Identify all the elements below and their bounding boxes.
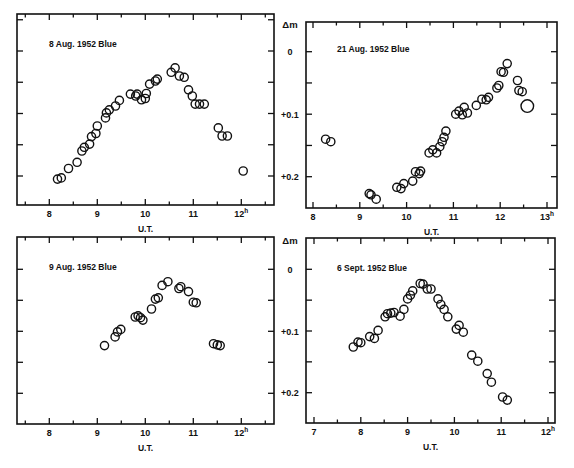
- x-axis-label: U.T.: [138, 443, 153, 453]
- data-point: [147, 305, 155, 313]
- x-tick-label: 12h: [234, 207, 248, 219]
- figure-canvas: 89101112hU.T.8 Aug. 1952 Blue 8910111213…: [0, 0, 574, 468]
- x-tick-label: 10: [140, 428, 150, 438]
- data-point: [154, 294, 162, 302]
- x-tick-label: 10: [449, 427, 459, 437]
- x-tick-label: 8: [47, 428, 52, 438]
- x-tick-label: 8: [47, 209, 52, 219]
- y-axis-label-delta-m: Δm: [282, 235, 297, 246]
- data-point: [214, 124, 222, 132]
- x-tick-label: 13h: [540, 210, 554, 222]
- data-point: [487, 378, 495, 386]
- x-tick-label: 11: [496, 427, 506, 437]
- panel-21-aug-1952: 8910111213hU.T.21 Aug. 1952 Blue: [306, 22, 557, 237]
- x-tick-label: 9: [357, 212, 362, 222]
- y-tick-label: 0: [287, 47, 292, 57]
- x-tick-label: 12: [495, 212, 505, 222]
- shared-y-axis-bottom: Δm0+0.1+0.2: [281, 235, 299, 398]
- data-point: [495, 81, 503, 89]
- data-point: [521, 100, 534, 113]
- data-point: [374, 326, 382, 334]
- shared-y-axis-top: Δm0+0.1+0.2: [281, 19, 299, 182]
- data-point: [349, 343, 357, 351]
- x-tick-label: 8: [358, 427, 363, 437]
- data-point: [474, 357, 482, 365]
- data-point: [483, 370, 491, 378]
- data-point: [64, 164, 72, 172]
- panel-title: 9 Aug. 1952 Blue: [49, 262, 117, 272]
- data-point: [503, 60, 511, 68]
- panel-title: 6 Sept. 1952 Blue: [337, 263, 407, 273]
- data-point: [111, 333, 119, 341]
- x-tick-label: 9: [95, 209, 100, 219]
- x-tick-label: 11: [189, 209, 199, 219]
- data-point: [513, 76, 521, 84]
- y-tick-label: +0.1: [281, 327, 299, 337]
- data-point: [409, 177, 417, 185]
- light-curve-figure: 89101112hU.T.8 Aug. 1952 Blue 8910111213…: [0, 0, 574, 468]
- y-tick-label: +0.2: [281, 388, 299, 398]
- x-tick-label: 7: [311, 427, 316, 437]
- data-point: [180, 73, 188, 81]
- data-point: [239, 167, 247, 175]
- data-point: [459, 328, 467, 336]
- panel-title: 21 Aug. 1952 Blue: [337, 44, 410, 54]
- data-point: [177, 283, 185, 291]
- x-tick-label: 10: [402, 212, 412, 222]
- data-point: [370, 334, 378, 342]
- y-tick-label: 0: [287, 265, 292, 275]
- data-point: [223, 132, 231, 140]
- data-point: [400, 305, 408, 313]
- y-tick-label: +0.2: [281, 172, 299, 182]
- panel-8-aug-1952: 89101112hU.T.8 Aug. 1952 Blue: [17, 14, 274, 234]
- data-point: [153, 75, 161, 83]
- data-point: [136, 314, 144, 322]
- data-point: [188, 92, 196, 100]
- y-axis-label-delta-m: Δm: [282, 19, 297, 30]
- x-tick-label: 11: [189, 428, 199, 438]
- panel-6-sept-1952: 789101112hU.T.6 Sept. 1952 Blue: [306, 238, 555, 452]
- data-point: [93, 122, 101, 130]
- data-point: [100, 342, 108, 350]
- x-tick-label: 9: [95, 428, 100, 438]
- data-point: [372, 195, 380, 203]
- panel-9-aug-1952: 89101112hU.T.9 Aug. 1952 Blue: [17, 237, 274, 453]
- x-tick-label: 8: [310, 212, 315, 222]
- data-point: [142, 89, 150, 97]
- data-point: [366, 333, 374, 341]
- x-axis-label: U.T.: [424, 227, 439, 237]
- x-tick-label: 12h: [541, 425, 555, 437]
- x-tick-label: 9: [405, 427, 410, 437]
- x-tick-label: 11: [449, 212, 459, 222]
- x-axis-label: U.T.: [138, 224, 153, 234]
- data-point: [444, 313, 452, 321]
- y-tick-label: +0.1: [281, 110, 299, 120]
- x-tick-label: 10: [140, 209, 150, 219]
- data-point: [417, 167, 425, 175]
- x-axis-label: U.T.: [423, 442, 438, 452]
- panel-title: 8 Aug. 1952 Blue: [49, 39, 117, 49]
- data-point: [73, 158, 81, 166]
- data-point: [184, 288, 192, 296]
- x-tick-label: 12h: [234, 426, 248, 438]
